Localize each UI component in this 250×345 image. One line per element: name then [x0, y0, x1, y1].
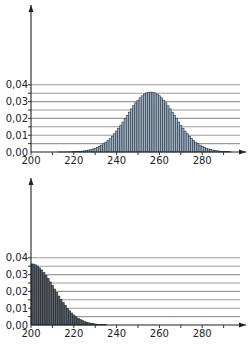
histogram-bar	[182, 128, 184, 152]
histogram-bar	[34, 265, 36, 325]
x-tick-label: 260	[150, 328, 169, 339]
x-axis-arrow-icon	[239, 150, 246, 155]
histogram-bar	[98, 146, 100, 152]
histogram-bottom: 2002202402602800,000,010,020,030,04	[0, 172, 250, 345]
histogram-bar	[203, 147, 205, 152]
histogram-bar	[158, 96, 160, 152]
histogram-bar	[154, 93, 156, 152]
x-tick-label: 240	[107, 328, 126, 339]
histogram-bar	[165, 103, 167, 152]
chart-figure: 2002202402602800,000,010,020,030,04 2002…	[0, 0, 250, 345]
histogram-bar	[81, 321, 83, 325]
histogram-bar	[94, 148, 96, 152]
histogram-bar	[131, 109, 133, 152]
y-tick-label: 0,03	[6, 269, 28, 280]
y-tick-label: 0,00	[6, 147, 28, 158]
histogram-bar	[128, 112, 130, 152]
histogram-bar	[133, 106, 135, 152]
histogram-top: 2002202402602800,000,010,020,030,04	[0, 0, 250, 172]
histogram-bar	[53, 289, 55, 325]
histogram-bar	[107, 140, 109, 152]
histogram-bar	[73, 315, 75, 325]
histogram-bar	[173, 115, 175, 152]
histogram-bar	[62, 303, 64, 325]
y-tick-label: 0,04	[6, 79, 28, 90]
histogram-bar	[120, 125, 122, 152]
histogram-bar	[43, 273, 45, 325]
histogram-bar	[111, 136, 113, 152]
histogram-bar	[126, 115, 128, 152]
y-tick-label: 0,03	[6, 96, 28, 107]
histogram-bar	[101, 145, 103, 152]
histogram-bar	[58, 296, 60, 325]
y-tick-label: 0,01	[6, 130, 28, 141]
histogram-bar	[137, 100, 139, 152]
x-tick-label: 280	[193, 328, 212, 339]
histogram-bar	[184, 131, 186, 152]
histogram-bar	[186, 134, 188, 152]
histogram-bar	[180, 125, 182, 152]
histogram-bar	[41, 270, 43, 325]
histogram-bar	[45, 275, 47, 325]
histogram-bar	[38, 268, 40, 325]
histogram-bar	[199, 145, 201, 152]
histogram-bar	[190, 138, 192, 152]
histogram-bar	[160, 98, 162, 152]
y-tick-label: 0,02	[6, 113, 28, 124]
histogram-bar	[143, 94, 145, 152]
histogram-bar	[163, 100, 165, 152]
x-tick-label: 280	[193, 155, 212, 166]
histogram-bar	[109, 138, 111, 152]
histogram-bar	[105, 142, 107, 152]
histogram-bar	[145, 93, 147, 152]
histogram-bar	[175, 119, 177, 152]
histogram-bar	[64, 306, 66, 325]
histogram-bar	[32, 264, 34, 325]
histogram-bar	[135, 103, 137, 152]
histogram-bar	[152, 92, 154, 152]
histogram-bar	[197, 144, 199, 152]
histogram-bar	[103, 144, 105, 152]
histogram-bar	[77, 318, 79, 325]
histogram-bar	[156, 94, 158, 152]
histogram-bar	[124, 119, 126, 152]
y-tick-label: 0,04	[6, 252, 28, 263]
x-tick-label: 220	[64, 328, 83, 339]
histogram-bar	[195, 142, 197, 152]
histogram-bar	[122, 122, 124, 152]
x-tick-label: 260	[150, 155, 169, 166]
histogram-bar	[60, 299, 62, 325]
histogram-bar	[150, 92, 152, 152]
x-axis-arrow-icon	[239, 323, 246, 328]
y-tick-label: 0,02	[6, 286, 28, 297]
histogram-bar	[188, 136, 190, 152]
y-tick-label: 0,01	[6, 303, 28, 314]
histogram-bar	[205, 148, 207, 152]
y-axis-arrow-icon	[29, 178, 34, 185]
histogram-bar	[141, 96, 143, 152]
histogram-bar	[139, 98, 141, 152]
histogram-bar	[113, 134, 115, 152]
histogram-bar	[56, 293, 58, 325]
histogram-bar	[47, 279, 49, 325]
histogram-bar	[169, 109, 171, 152]
y-axis-arrow-icon	[29, 5, 34, 12]
x-tick-label: 240	[107, 155, 126, 166]
histogram-bar	[193, 140, 195, 152]
histogram-bar	[51, 285, 53, 325]
histogram-bar	[148, 92, 150, 152]
histogram-bar	[178, 122, 180, 152]
histogram-bar	[68, 311, 70, 325]
histogram-bar	[36, 266, 38, 325]
histogram-bar	[116, 131, 118, 152]
x-tick-label: 220	[64, 155, 83, 166]
histogram-bar	[118, 128, 120, 152]
histogram-bar	[66, 308, 68, 325]
y-tick-label: 0,00	[6, 320, 28, 331]
histogram-bar	[96, 147, 98, 152]
histogram-bar	[171, 112, 173, 152]
histogram-bar	[79, 320, 81, 325]
histogram-bar	[71, 313, 73, 325]
histogram-bar	[49, 282, 51, 325]
histogram-bar	[167, 106, 169, 152]
